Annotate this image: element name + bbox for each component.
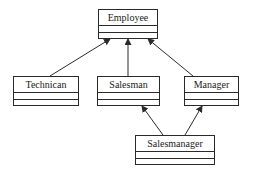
operations-compartment	[99, 33, 157, 38]
class-name: Manager	[185, 77, 238, 93]
edge-salesmanager-manager	[185, 106, 202, 135]
class-diagram: Employee Technican Salesman Manager Sale…	[0, 0, 254, 179]
attributes-compartment	[185, 93, 238, 100]
class-name: Salesmanager	[136, 136, 214, 152]
operations-compartment	[136, 159, 214, 164]
class-name: Technican	[14, 77, 78, 93]
class-technican: Technican	[13, 76, 79, 106]
edge-salesmanager-salesman	[142, 106, 163, 135]
class-employee: Employee	[98, 9, 158, 39]
class-manager: Manager	[184, 76, 239, 106]
class-salesman: Salesman	[97, 76, 160, 106]
edge-technican-employee	[50, 39, 110, 76]
edge-manager-employee	[148, 39, 193, 76]
class-name: Salesman	[98, 77, 159, 93]
operations-compartment	[98, 100, 159, 105]
operations-compartment	[185, 100, 238, 105]
attributes-compartment	[14, 93, 78, 100]
class-salesmanager: Salesmanager	[135, 135, 215, 165]
attributes-compartment	[99, 26, 157, 33]
attributes-compartment	[136, 152, 214, 159]
operations-compartment	[14, 100, 78, 105]
class-name: Employee	[99, 10, 157, 26]
attributes-compartment	[98, 93, 159, 100]
